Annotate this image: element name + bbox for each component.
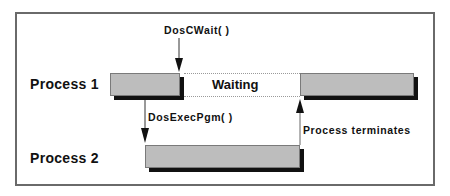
terminates-arrow-icon: [296, 99, 304, 145]
event-arrows: [0, 0, 450, 196]
doscwait-arrow-icon: [175, 38, 183, 72]
dosexecpgm-arrow-icon: [141, 100, 149, 143]
